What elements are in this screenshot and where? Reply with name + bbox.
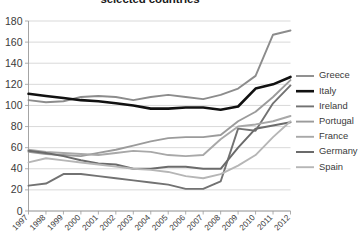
- legend-label-germany: Germany: [319, 145, 358, 156]
- y-axis-ticks: 020406080100120140160180: [5, 15, 29, 217]
- x-tick-label: 2002: [98, 213, 118, 233]
- legend-label-france: France: [319, 130, 348, 141]
- data-series: [29, 31, 291, 189]
- chart-container: selected countries 020406080100120140160…: [0, 0, 359, 240]
- y-tick-label: 80: [11, 120, 23, 132]
- line-chart-plot: 020406080100120140160180 199719981999200…: [0, 0, 359, 240]
- x-tick-label: 2008: [203, 213, 223, 233]
- y-tick-label: 120: [5, 78, 23, 90]
- legend-label-greece: Greece: [319, 69, 350, 80]
- x-tick-label: 2007: [185, 213, 205, 233]
- legend-label-portugal: Portugal: [319, 115, 354, 126]
- series-line-italy: [29, 77, 291, 110]
- y-tick-label: 60: [11, 141, 23, 153]
- x-tick-label: 2009: [220, 213, 240, 233]
- x-tick-label: 2003: [115, 213, 135, 233]
- x-tick-label: 2010: [238, 213, 258, 233]
- gridlines: [29, 21, 291, 211]
- x-tick-label: 2006: [168, 213, 188, 233]
- x-tick-label: 2000: [63, 213, 83, 233]
- y-tick-label: 180: [5, 15, 23, 27]
- chart-axes: [29, 21, 291, 211]
- x-tick-label: 1999: [46, 213, 66, 233]
- x-tick-label: 2004: [133, 213, 153, 233]
- x-tick-label: 2001: [81, 213, 101, 233]
- legend-label-ireland: Ireland: [319, 100, 348, 111]
- y-tick-label: 20: [11, 183, 23, 195]
- x-axis-ticks: 1997199819992000200120022003200420052006…: [11, 211, 293, 232]
- x-tick-label: 1998: [28, 213, 48, 233]
- y-tick-label: 160: [5, 36, 23, 48]
- x-tick-label: 2012: [273, 213, 293, 233]
- legend-label-spain: Spain: [319, 161, 343, 172]
- y-tick-label: 100: [5, 99, 23, 111]
- legend-label-italy: Italy: [319, 85, 337, 96]
- x-tick-label: 2005: [150, 213, 170, 233]
- series-line-france: [29, 116, 291, 156]
- y-tick-label: 40: [11, 162, 23, 174]
- y-tick-label: 140: [5, 57, 23, 69]
- x-tick-label: 1997: [11, 213, 31, 233]
- chart-legend: GreeceItalyIrelandPortugalFranceGermanyS…: [296, 69, 358, 171]
- x-tick-label: 2011: [256, 213, 275, 232]
